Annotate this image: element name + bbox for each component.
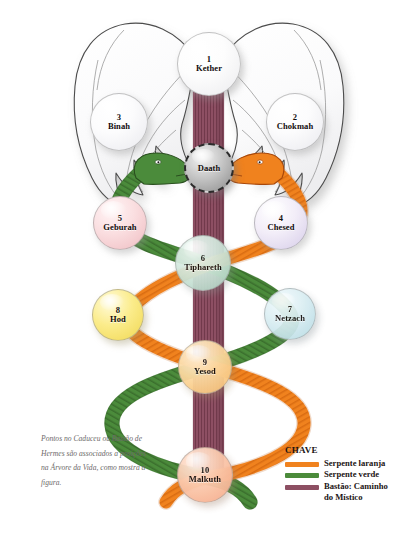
legend-label-green: Serpente verde bbox=[324, 469, 379, 480]
node-malkuth[interactable]: 10 Malkuth bbox=[177, 447, 233, 503]
node-tiphareth[interactable]: 6 Tiphareth bbox=[175, 235, 231, 291]
legend-label-staff: Bastão: Caminho do Místico bbox=[324, 481, 388, 504]
node-label: Tiphareth bbox=[184, 263, 221, 272]
legend-swatch-green bbox=[285, 473, 319, 478]
node-geburah[interactable]: 5 Geburah bbox=[93, 196, 147, 250]
node-daath[interactable]: Daath bbox=[184, 143, 234, 193]
diagram-canvas: 1 Kether 2 Chokmah 3 Binah Daath 4 Chese… bbox=[0, 0, 418, 541]
node-label: Daath bbox=[198, 164, 221, 173]
node-netzach[interactable]: 7 Netzach bbox=[264, 288, 316, 340]
node-chokmah[interactable]: 2 Chokmah bbox=[266, 93, 324, 151]
node-label: Netzach bbox=[275, 314, 305, 323]
legend-item-orange-serpent: Serpente laranja bbox=[285, 458, 413, 469]
legend-swatch-purple bbox=[285, 485, 319, 490]
legend-swatch-orange bbox=[285, 462, 319, 467]
figure-caption: Pontos no Caduceu ou Bastão de Hermes sã… bbox=[41, 432, 149, 490]
node-yesod[interactable]: 9 Yesod bbox=[178, 340, 232, 394]
legend-item-staff: Bastão: Caminho do Místico bbox=[285, 481, 413, 504]
node-label: Binah bbox=[108, 122, 130, 131]
node-chesed[interactable]: 4 Chesed bbox=[254, 196, 308, 250]
node-label: Chesed bbox=[267, 223, 294, 232]
node-binah[interactable]: 3 Binah bbox=[90, 93, 148, 151]
node-label: Chokmah bbox=[277, 122, 314, 131]
node-label: Malkuth bbox=[189, 475, 221, 484]
legend-title: CHAVE bbox=[285, 445, 413, 455]
legend: CHAVE Serpente laranja Serpente verde Ba… bbox=[285, 445, 413, 503]
node-hod[interactable]: 8 Hod bbox=[92, 289, 144, 341]
node-label: Kether bbox=[196, 64, 222, 73]
node-label: Yesod bbox=[194, 367, 216, 376]
node-kether[interactable]: 1 Kether bbox=[177, 32, 241, 96]
node-label: Geburah bbox=[103, 223, 136, 232]
legend-label-orange: Serpente laranja bbox=[324, 458, 385, 469]
legend-item-green-serpent: Serpente verde bbox=[285, 469, 413, 480]
node-label: Hod bbox=[110, 315, 126, 324]
